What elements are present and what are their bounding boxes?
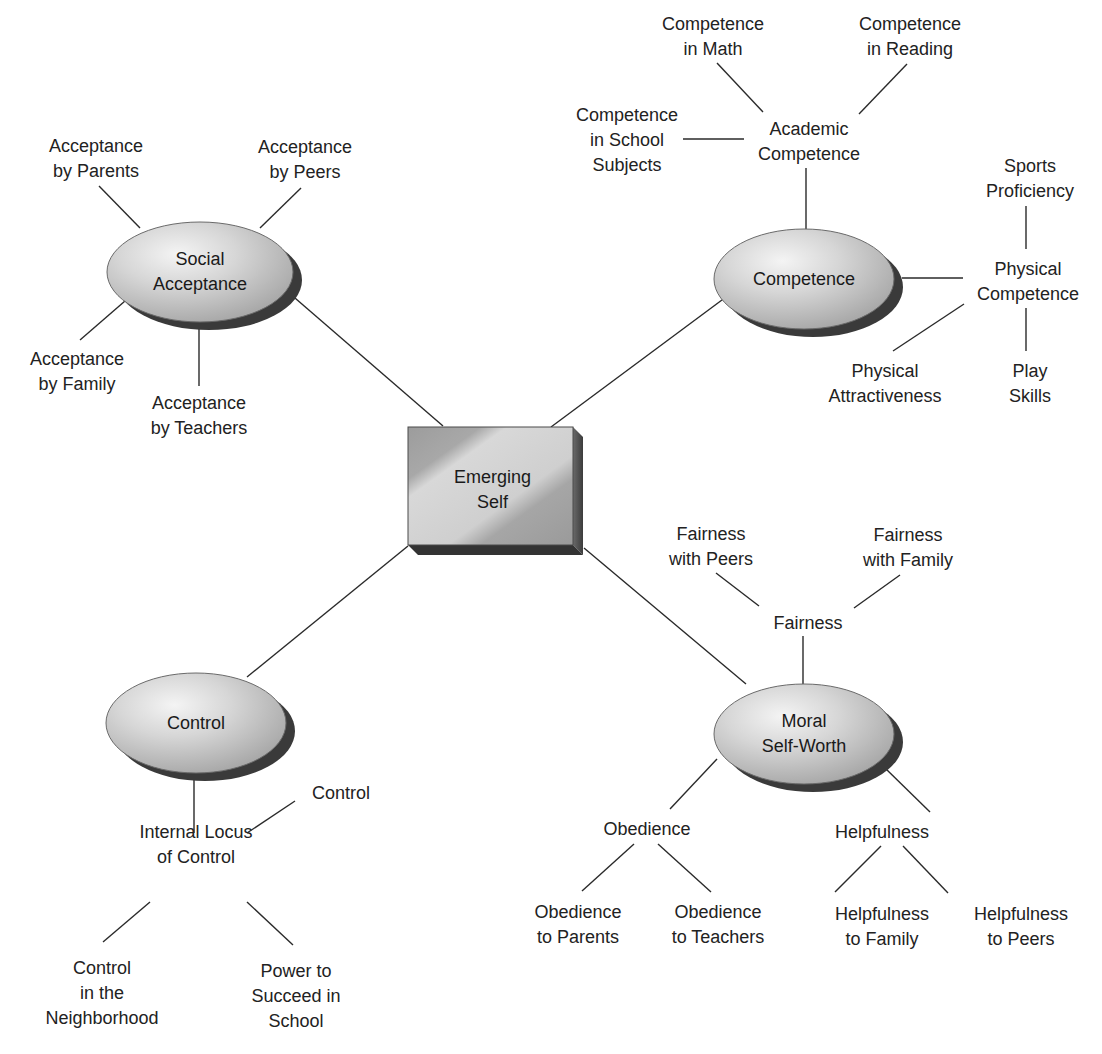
control-in-the-neighborhood-label: Control in the Neighborhood <box>45 956 158 1031</box>
label-line: Helpfulness <box>835 902 929 927</box>
connector-obedience-to-teachers-line <box>658 844 711 892</box>
self-concept-diagram: Emerging Self Social Acceptance Competen… <box>0 0 1102 1054</box>
label-line: Internal Locus <box>139 820 252 845</box>
obedience-to-parents-label: Obedience to Parents <box>534 900 621 950</box>
label-line: Subjects <box>576 153 678 178</box>
label-line: Obedience <box>672 900 765 925</box>
label-line: in School <box>576 128 678 153</box>
emerging-self-line-2: Self <box>454 490 531 515</box>
connector-obedience-to-parents-line <box>582 844 634 891</box>
connector-helpfulness-to-family-line <box>835 846 881 892</box>
competence-in-math-label: Competence in Math <box>662 12 764 62</box>
label-line: by Parents <box>49 159 143 184</box>
connector-internal-to-control-leaf <box>247 801 295 833</box>
physical-competence-label: Physical Competence <box>977 257 1079 307</box>
helpfulness-label: Helpfulness <box>835 820 929 845</box>
label-line: Competence <box>576 103 678 128</box>
connector-self-to-control <box>247 546 408 677</box>
internal-locus-of-control-label: Internal Locus of Control <box>139 820 252 870</box>
label-line: Skills <box>1009 384 1051 409</box>
label-line: to Teachers <box>672 925 765 950</box>
acceptance-by-peers-label: Acceptance by Peers <box>258 135 352 185</box>
social-acceptance-node: Social Acceptance <box>153 247 247 297</box>
connector-self-to-competence <box>551 297 726 427</box>
label-line: Fairness <box>863 523 953 548</box>
power-to-succeed-in-school-label: Power to Succeed in School <box>251 959 340 1034</box>
social-acceptance-line-1: Social <box>153 247 247 272</box>
obedience-to-teachers-label: Obedience to Teachers <box>672 900 765 950</box>
connector-self-to-social <box>288 292 443 426</box>
label-line: of Control <box>139 845 252 870</box>
label-line: Fairness <box>773 611 842 636</box>
label-line: Physical <box>977 257 1079 282</box>
connector-helpfulness-to-peers-line <box>903 846 948 893</box>
label-line: Attractiveness <box>828 384 941 409</box>
label-line: Acceptance <box>49 134 143 159</box>
fairness-with-family-label: Fairness with Family <box>863 523 953 573</box>
box-bottom-face <box>408 545 583 555</box>
helpfulness-to-family-label: Helpfulness to Family <box>835 902 929 952</box>
competence-node: Competence <box>753 267 855 292</box>
label-line: Succeed in <box>251 984 340 1009</box>
label-line: Acceptance <box>258 135 352 160</box>
label-line: by Peers <box>258 160 352 185</box>
label-line: Control <box>45 956 158 981</box>
connector-moral-to-obedience <box>670 759 717 809</box>
competence-in-reading-label: Competence in Reading <box>859 12 961 62</box>
label-line: Obedience <box>603 817 690 842</box>
acceptance-by-parents-label: Acceptance by Parents <box>49 134 143 184</box>
physical-attractiveness-label: Physical Attractiveness <box>828 359 941 409</box>
label-line: with Family <box>863 548 953 573</box>
label-line: Competence <box>977 282 1079 307</box>
control-node: Control <box>167 711 225 736</box>
label-line: Obedience <box>534 900 621 925</box>
label-line: with Peers <box>669 547 753 572</box>
moral-self-worth-node: Moral Self-Worth <box>762 709 847 759</box>
label-line: Academic <box>758 117 860 142</box>
social-acceptance-line-2: Acceptance <box>153 272 247 297</box>
label-line: to Peers <box>974 927 1068 952</box>
label-line: Competence <box>859 12 961 37</box>
competence-line-1: Competence <box>753 267 855 292</box>
connector-internal-to-neighborhood <box>103 902 150 942</box>
label-line: Sports <box>986 154 1074 179</box>
connector-fairness-to-family <box>854 575 900 608</box>
label-line: by Teachers <box>151 416 248 441</box>
acceptance-by-teachers-label: Acceptance by Teachers <box>151 391 248 441</box>
box-side-face <box>573 427 583 555</box>
label-line: Neighborhood <box>45 1006 158 1031</box>
label-line: Fairness <box>669 522 753 547</box>
connector-academic-to-reading <box>859 64 907 114</box>
label-line: Play <box>1009 359 1051 384</box>
label-line: Helpfulness <box>974 902 1068 927</box>
academic-competence-label: Academic Competence <box>758 117 860 167</box>
connector-fairness-to-peers <box>716 573 759 606</box>
label-line: by Family <box>30 372 124 397</box>
label-line: Competence <box>758 142 860 167</box>
connector-academic-to-math <box>717 63 763 112</box>
connector-social-to-family <box>80 301 125 340</box>
fairness-label: Fairness <box>773 611 842 636</box>
label-line: Acceptance <box>151 391 248 416</box>
acceptance-by-family-label: Acceptance by Family <box>30 347 124 397</box>
connector-moral-to-helpfulness <box>885 768 930 812</box>
label-line: in Math <box>662 37 764 62</box>
connector-social-to-peers <box>260 188 301 228</box>
label-line: Helpfulness <box>835 820 929 845</box>
label-line: in Reading <box>859 37 961 62</box>
connector-internal-to-power <box>247 902 293 945</box>
label-line: Acceptance <box>30 347 124 372</box>
label-line: Proficiency <box>986 179 1074 204</box>
obedience-label: Obedience <box>603 817 690 842</box>
label-line: in the <box>45 981 158 1006</box>
label-line: to Parents <box>534 925 621 950</box>
label-line: Physical <box>828 359 941 384</box>
label-line: School <box>251 1009 340 1034</box>
helpfulness-to-peers-label: Helpfulness to Peers <box>974 902 1068 952</box>
control-line-1: Control <box>167 711 225 736</box>
emerging-self-node: Emerging Self <box>454 465 531 515</box>
fairness-with-peers-label: Fairness with Peers <box>669 522 753 572</box>
play-skills-label: Play Skills <box>1009 359 1051 409</box>
competence-in-school-subjects-label: Competence in School Subjects <box>576 103 678 178</box>
control-leaf-label: Control <box>312 781 370 806</box>
